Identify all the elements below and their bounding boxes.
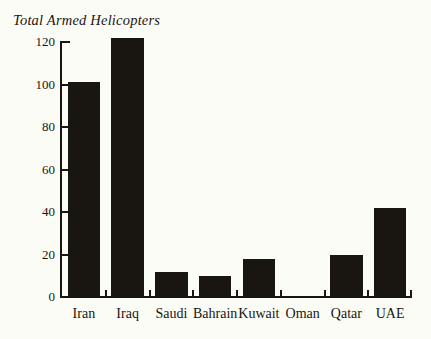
y-tick-label-120: 120 xyxy=(13,35,55,48)
x-tick-4 xyxy=(280,290,282,298)
x-label-iran: Iran xyxy=(73,306,96,322)
bar-saudi xyxy=(155,272,187,298)
x-tick-0 xyxy=(105,290,107,298)
bar-series xyxy=(62,42,412,297)
x-tick-6 xyxy=(367,290,369,298)
x-tick-end xyxy=(410,290,412,298)
x-label-uae: UAE xyxy=(376,306,405,322)
chart-page: Total Armed Helicopters 020406080100120 … xyxy=(0,0,431,339)
x-label-bahrain: Bahrain xyxy=(193,306,237,322)
y-tick-label-40: 40 xyxy=(13,205,55,218)
bar-uae xyxy=(374,208,406,297)
x-tick-2 xyxy=(192,290,194,298)
bar-iran xyxy=(68,82,100,297)
y-tick-label-60: 60 xyxy=(13,163,55,176)
y-tick-label-0: 0 xyxy=(13,290,55,303)
axis-top-corner xyxy=(62,41,70,43)
x-label-oman: Oman xyxy=(286,306,320,322)
x-tick-1 xyxy=(149,290,151,298)
bar-qatar xyxy=(330,255,362,298)
x-label-kuwait: Kuwait xyxy=(238,306,279,322)
chart-title: Total Armed Helicopters xyxy=(13,12,160,29)
y-tick-label-100: 100 xyxy=(13,78,55,91)
x-tick-3 xyxy=(236,290,238,298)
x-label-iraq: Iraq xyxy=(116,306,139,322)
bar-iraq xyxy=(111,38,143,297)
bar-bahrain xyxy=(199,276,231,297)
x-tick-5 xyxy=(324,290,326,298)
x-label-saudi: Saudi xyxy=(155,306,187,322)
y-tick-label-80: 80 xyxy=(13,120,55,133)
y-tick-label-20: 20 xyxy=(13,248,55,261)
x-label-qatar: Qatar xyxy=(331,306,362,322)
bar-kuwait xyxy=(243,259,275,297)
